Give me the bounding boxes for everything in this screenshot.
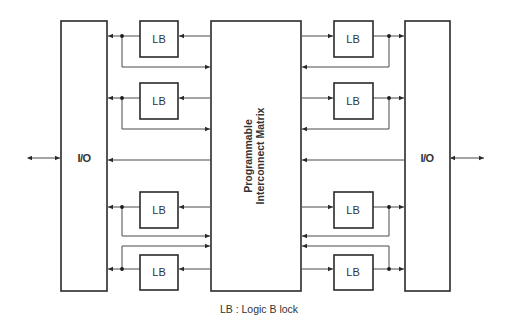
interconnect-matrix-block: Programmable Interconnect Matrix xyxy=(211,21,301,291)
left-lb-wiring xyxy=(108,34,210,271)
right-logic-block-3: LB xyxy=(334,192,373,228)
right-logic-block-4: LB xyxy=(334,255,373,290)
lb-label: LB xyxy=(346,204,359,216)
right-lb-wiring xyxy=(302,34,404,271)
right-logic-block-1: LB xyxy=(334,21,373,57)
legend-caption: LB : Logic B lock xyxy=(220,303,299,315)
left-io-label: I/O xyxy=(77,152,91,164)
left-logic-block-1: LB xyxy=(140,21,178,57)
left-logic-block-4: LB xyxy=(140,255,178,290)
right-io-block: I/O xyxy=(405,21,450,291)
left-io-block: I/O xyxy=(61,21,107,291)
right-logic-block-2: LB xyxy=(334,83,373,119)
lb-label: LB xyxy=(152,266,165,278)
pld-architecture-diagram: I/O I/O Programmable Interconnect Matrix… xyxy=(0,0,507,325)
left-logic-block-2: LB xyxy=(140,83,178,119)
lb-label: LB xyxy=(346,33,359,45)
matrix-label-line1: Programmable xyxy=(242,119,254,193)
lb-label: LB xyxy=(346,266,359,278)
matrix-label-line2: Interconnect Matrix xyxy=(254,107,266,204)
lb-label: LB xyxy=(346,95,359,107)
lb-label: LB xyxy=(152,33,165,45)
right-io-label: I/O xyxy=(420,152,434,164)
left-logic-block-3: LB xyxy=(140,192,178,228)
lb-label: LB xyxy=(152,95,165,107)
lb-label: LB xyxy=(152,204,165,216)
